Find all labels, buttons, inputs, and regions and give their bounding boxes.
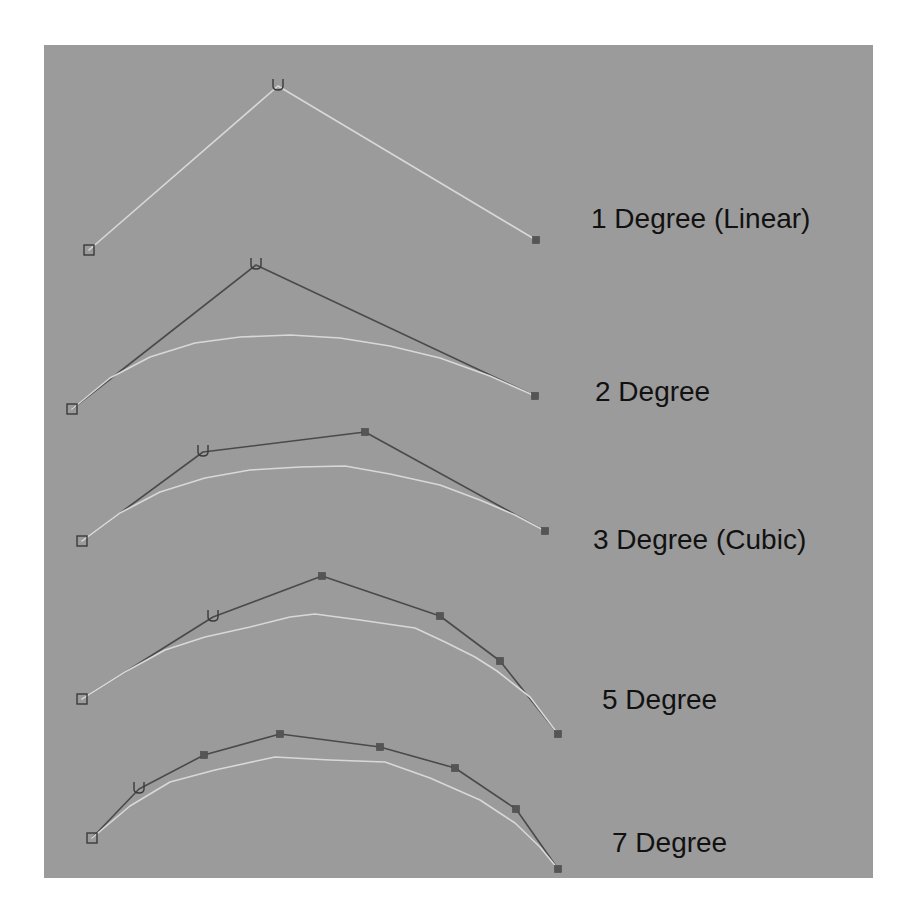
filled-square-icon	[437, 613, 444, 620]
degree-label: 3 Degree (Cubic)	[593, 524, 806, 555]
filled-square-icon	[319, 573, 326, 580]
degree-label: 1 Degree (Linear)	[591, 203, 810, 234]
filled-square-icon	[201, 752, 208, 759]
nurbs-degree-diagram: 1 Degree (Linear)2 Degree3 Degree (Cubic…	[0, 0, 916, 921]
filled-square-icon	[513, 806, 520, 813]
filled-square-icon	[555, 731, 562, 738]
degree-label: 2 Degree	[595, 376, 710, 407]
filled-square-icon	[362, 429, 369, 436]
filled-square-icon	[533, 237, 540, 244]
filled-square-icon	[542, 528, 549, 535]
filled-square-icon	[452, 765, 459, 772]
filled-square-icon	[377, 744, 384, 751]
filled-square-icon	[277, 731, 284, 738]
degree-label: 7 Degree	[612, 827, 727, 858]
viewport-panel	[44, 45, 873, 878]
filled-square-icon	[532, 393, 539, 400]
degree-label: 5 Degree	[602, 684, 717, 715]
filled-square-icon	[555, 866, 562, 873]
filled-square-icon	[497, 658, 504, 665]
